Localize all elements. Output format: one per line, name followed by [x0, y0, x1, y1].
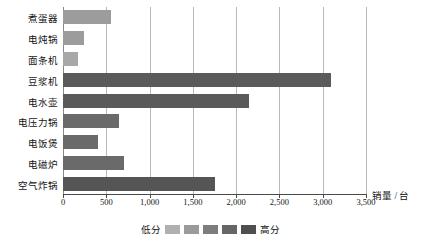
legend-swatch [241, 225, 256, 234]
legend: 低分 高分 [0, 222, 421, 236]
bar [63, 177, 215, 191]
legend-swatch [222, 225, 237, 234]
y-axis-label: 空气炸锅 [0, 178, 58, 192]
bar [63, 10, 111, 24]
bar [63, 52, 78, 66]
legend-swatch [165, 225, 180, 234]
gridline [366, 7, 367, 194]
x-tick-label: 1,500 [183, 197, 202, 207]
y-axis-label: 电磁炉 [0, 157, 58, 171]
gridline [323, 7, 324, 194]
x-tick-label: 2,500 [270, 197, 289, 207]
bar [63, 73, 331, 87]
bar [63, 94, 249, 108]
x-tick-label: 1,000 [140, 197, 159, 207]
bar-chart: 煮蛋器电炖锅面条机豆浆机电水壶电压力锅电饭煲电磁炉空气炸锅 05001,0001… [0, 0, 421, 248]
y-axis-label: 电水壶 [0, 95, 58, 109]
x-tick-label: 500 [100, 197, 113, 207]
legend-high-label: 高分 [260, 222, 280, 236]
legend-swatch [184, 225, 199, 234]
x-tick-label: 2,000 [227, 197, 246, 207]
y-axis-label: 电炖锅 [0, 32, 58, 46]
bar [63, 114, 119, 128]
legend-swatch [203, 225, 218, 234]
bar [63, 156, 124, 170]
x-tick-label: 3,000 [313, 197, 332, 207]
y-axis-label: 面条机 [0, 53, 58, 67]
gridline [279, 7, 280, 194]
x-axis-title: 销量 / 台 [372, 188, 409, 202]
y-axis-label: 豆浆机 [0, 74, 58, 88]
y-axis-label: 电压力锅 [0, 115, 58, 129]
bar [63, 135, 98, 149]
bar [63, 31, 84, 45]
x-axis-line [63, 194, 366, 195]
y-axis-label: 电饭煲 [0, 136, 58, 150]
legend-swatches [165, 225, 256, 234]
x-tick-label: 0 [61, 197, 65, 207]
y-axis-label: 煮蛋器 [0, 11, 58, 25]
legend-low-label: 低分 [141, 222, 161, 236]
